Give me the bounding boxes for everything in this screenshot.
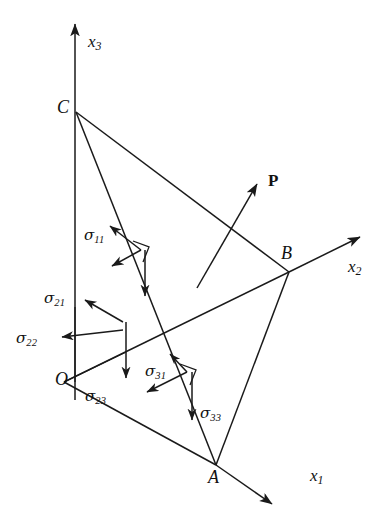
vertex-label-C: C [57,98,69,116]
stress-cluster-sigma2 [62,300,126,382]
stress-label-sigma-21: σ21 [44,291,65,308]
stress-label-sigma-23: σ23 [85,389,106,406]
traction-vector-group [197,184,257,288]
traction-vector-P [197,184,257,288]
vertex-label-O: O [55,370,68,388]
vertex-label-A: A [208,468,219,486]
face-connector-2c [64,352,126,382]
axis-group [75,24,360,504]
axis-x1-line [216,465,272,504]
tetrahedron-edges [64,112,289,465]
stress-label-sigma-11: σ11 [84,228,104,245]
stress-label-sigma-31: σ31 [145,364,166,381]
vertex-label-B: B [281,244,292,262]
stress-cluster-sigma1 [110,226,149,296]
axis-label-x1: x1 [310,467,324,487]
axis-label-x2: x2 [348,258,362,278]
edge-B-A [216,272,289,465]
stress-arrow-sigma-21 [85,300,123,322]
axis-label-x3: x3 [88,33,102,53]
stress-tetrahedron-figure: x3 x2 x1 O A B C P σ11 σ21 σ22 σ23 σ31 σ… [0,0,388,529]
stress-arrow-sigma-11 [110,226,141,250]
stress-label-sigma-22: σ22 [16,331,37,348]
stress-label-sigma-33: σ33 [200,406,221,423]
figure-canvas [0,0,388,529]
traction-vector-label-P: P [268,172,278,189]
stress-arrow-sigma-22 [62,330,123,337]
right-angle-bracket-1 [133,241,149,262]
